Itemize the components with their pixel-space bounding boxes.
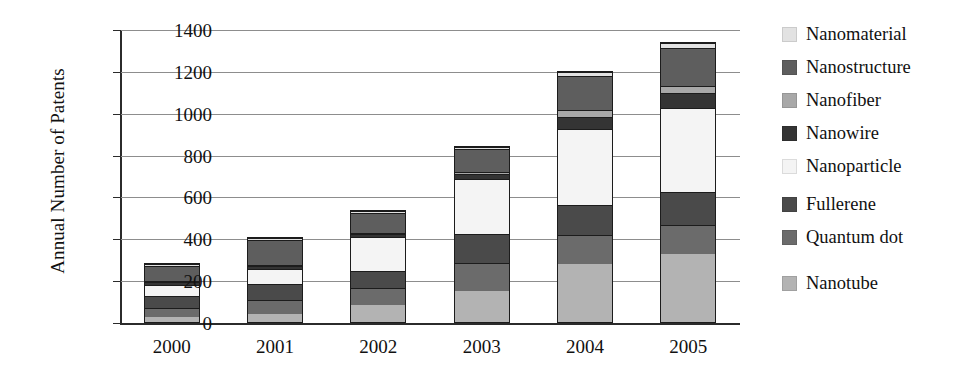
legend-label: Nanofiber	[806, 90, 881, 110]
x-axis-line	[120, 323, 740, 325]
y-axis-tick	[113, 72, 121, 73]
y-axis-tick-label: 1200	[122, 63, 212, 82]
bar-segment-nanotube[interactable]	[351, 305, 405, 322]
legend-label: Fullerene	[806, 194, 876, 214]
bar-segment-nanoparticle[interactable]	[351, 237, 405, 271]
bar-segment-nanostructure[interactable]	[351, 213, 405, 233]
legend-item-nanomaterial[interactable]: Nanomaterial	[782, 22, 960, 46]
bar-segment-nanofiber[interactable]	[661, 86, 715, 93]
legend-item-nanoparticle[interactable]: Nanoparticle	[782, 154, 960, 178]
y-axis-tick-label: 600	[122, 188, 212, 207]
legend-swatch-icon	[782, 93, 797, 108]
legend-swatch-icon	[782, 230, 797, 245]
bar-2002[interactable]	[350, 210, 406, 323]
bar-segment-fullerene[interactable]	[661, 192, 715, 225]
x-axis-tick-label-2000: 2000	[127, 336, 217, 358]
bar-segment-nanotube[interactable]	[558, 264, 612, 322]
bar-segment-nanostructure[interactable]	[558, 76, 612, 110]
legend-label: Nanotube	[806, 273, 878, 293]
bar-segment-nanoparticle[interactable]	[248, 269, 302, 284]
gridline	[120, 30, 740, 31]
bar-segment-nanotube[interactable]	[661, 254, 715, 322]
bar-2001[interactable]	[247, 237, 303, 323]
bar-segment-nanotube[interactable]	[455, 291, 509, 322]
bar-segment-nanostructure[interactable]	[661, 48, 715, 86]
legend-swatch-icon	[782, 60, 797, 75]
bar-segment-nanowire[interactable]	[558, 117, 612, 128]
legend-swatch-icon	[782, 126, 797, 141]
bar-segment-nanowire[interactable]	[661, 93, 715, 108]
stacked-bar-chart: Annual Number of Patents NanomaterialNan…	[0, 0, 960, 367]
bar-segment-quantum-dot[interactable]	[248, 300, 302, 314]
bar-2004[interactable]	[557, 71, 613, 323]
y-axis-tick	[113, 323, 121, 324]
gridline	[120, 72, 740, 73]
bar-segment-quantum-dot[interactable]	[661, 225, 715, 254]
y-axis-tick-label: 800	[122, 147, 212, 166]
bar-segment-nanoparticle[interactable]	[455, 179, 509, 234]
bar-segment-nanostructure[interactable]	[248, 240, 302, 265]
legend-label: Nanowire	[806, 123, 879, 143]
bar-segment-fullerene[interactable]	[455, 234, 509, 263]
gridline	[120, 197, 740, 198]
bar-segment-quantum-dot[interactable]	[558, 235, 612, 264]
legend-item-quantum-dot[interactable]: Quantum dot	[782, 225, 960, 249]
x-axis-tick-label-2003: 2003	[437, 336, 527, 358]
y-axis-tick-label: 1400	[122, 21, 212, 40]
bar-segment-quantum-dot[interactable]	[351, 288, 405, 304]
legend-item-nanofiber[interactable]: Nanofiber	[782, 88, 960, 112]
legend-label: Nanostructure	[806, 57, 911, 77]
legend-swatch-icon	[782, 27, 797, 42]
x-axis-tick-label-2005: 2005	[643, 336, 733, 358]
legend-swatch-icon	[782, 276, 797, 291]
bar-segment-quantum-dot[interactable]	[455, 263, 509, 291]
y-axis-tick	[113, 239, 121, 240]
bar-segment-nanoparticle[interactable]	[661, 108, 715, 192]
legend-label: Nanomaterial	[806, 24, 907, 44]
x-axis-tick-label-2004: 2004	[540, 336, 630, 358]
bar-segment-fullerene[interactable]	[558, 205, 612, 235]
bar-segment-nanotube[interactable]	[248, 314, 302, 322]
bar-segment-fullerene[interactable]	[145, 296, 199, 308]
bar-segment-fullerene[interactable]	[248, 284, 302, 299]
legend-label: Nanoparticle	[806, 156, 902, 176]
y-axis-tick	[113, 197, 121, 198]
x-axis-tick-label-2001: 2001	[230, 336, 320, 358]
gridline	[120, 239, 740, 240]
gridline	[120, 156, 740, 157]
bar-2003[interactable]	[454, 146, 510, 323]
bar-segment-nanostructure[interactable]	[455, 149, 509, 172]
legend-item-nanotube[interactable]: Nanotube	[782, 271, 960, 295]
bar-segment-fullerene[interactable]	[351, 271, 405, 288]
y-axis-tick-label: 200	[122, 272, 212, 291]
y-axis-title: Annual Number of Patents	[47, 21, 69, 321]
legend-label: Quantum dot	[806, 227, 903, 247]
bar-2005[interactable]	[660, 42, 716, 323]
plot-area	[120, 30, 740, 325]
y-axis-tick-label: 1000	[122, 105, 212, 124]
legend-item-fullerene[interactable]: Fullerene	[782, 192, 960, 216]
legend-swatch-icon	[782, 197, 797, 212]
gridline	[120, 114, 740, 115]
y-axis-tick-label: 400	[122, 230, 212, 249]
legend-item-nanostructure[interactable]: Nanostructure	[782, 55, 960, 79]
y-axis-tick	[113, 30, 121, 31]
y-axis-tick-label: 0	[122, 314, 212, 333]
x-axis-tick-label-2002: 2002	[333, 336, 423, 358]
chart-legend: NanomaterialNanostructureNanofiberNanowi…	[782, 22, 960, 304]
bar-segment-nanofiber[interactable]	[558, 110, 612, 117]
y-axis-tick	[113, 114, 121, 115]
legend-swatch-icon	[782, 159, 797, 174]
legend-item-nanowire[interactable]: Nanowire	[782, 121, 960, 145]
gridline	[120, 281, 740, 282]
y-axis-tick	[113, 281, 121, 282]
y-axis-tick	[113, 156, 121, 157]
bar-segment-nanoparticle[interactable]	[558, 129, 612, 205]
